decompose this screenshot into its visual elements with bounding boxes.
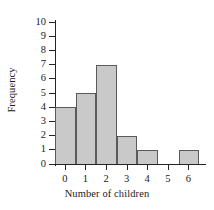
y-axis-tick-label: 3 xyxy=(41,114,46,127)
bar xyxy=(96,65,117,164)
x-axis-tick: 5 xyxy=(168,165,169,170)
tick-mark xyxy=(49,36,55,37)
histogram-chart: Frequency 012345678910 0123456 Number of… xyxy=(0,0,214,210)
bar xyxy=(117,136,138,164)
x-axis-tick: 1 xyxy=(85,165,86,170)
y-axis-tick: 7 xyxy=(49,64,55,65)
y-axis-tick: 6 xyxy=(49,78,55,79)
tick-mark xyxy=(147,165,148,170)
x-axis-tick: 0 xyxy=(65,165,66,170)
y-axis-tick-label: 2 xyxy=(41,128,46,141)
x-axis-tick-label: 5 xyxy=(159,172,177,185)
x-axis-tick-label: 0 xyxy=(56,172,74,185)
y-axis-tick-label: 10 xyxy=(36,15,47,28)
y-axis-tick: 5 xyxy=(49,93,55,94)
y-axis-tick: 8 xyxy=(49,50,55,51)
y-axis-title: Frequency xyxy=(6,5,20,175)
x-axis-title: Number of children xyxy=(0,188,214,199)
x-axis-tick-label: 4 xyxy=(138,172,156,185)
tick-mark xyxy=(49,64,55,65)
tick-mark xyxy=(49,22,55,23)
x-axis-tick: 3 xyxy=(127,165,128,170)
y-axis-tick-label: 1 xyxy=(41,142,46,155)
bar xyxy=(137,150,158,164)
y-axis-tick-label: 6 xyxy=(41,71,46,84)
tick-mark xyxy=(106,165,107,170)
x-axis-tick: 4 xyxy=(147,165,148,170)
tick-mark xyxy=(188,165,189,170)
x-axis-line xyxy=(55,164,206,165)
x-axis-tick-label: 1 xyxy=(76,172,94,185)
x-axis-tick: 2 xyxy=(106,165,107,170)
tick-mark xyxy=(85,165,86,170)
x-axis-tick-label: 6 xyxy=(179,172,197,185)
bar xyxy=(76,93,97,164)
y-axis-tick-label: 5 xyxy=(41,86,46,99)
x-axis-tick-label: 2 xyxy=(97,172,115,185)
bar xyxy=(55,107,76,164)
y-axis-tick-label: 4 xyxy=(41,100,46,113)
y-axis-tick-label: 9 xyxy=(41,29,46,42)
bar xyxy=(179,150,200,164)
y-axis-tick: 10 xyxy=(49,22,55,23)
tick-mark xyxy=(49,50,55,51)
tick-mark xyxy=(65,165,66,170)
y-axis-tick-label: 0 xyxy=(41,157,46,170)
tick-mark xyxy=(168,165,169,170)
x-axis-tick-label: 3 xyxy=(118,172,136,185)
tick-mark xyxy=(49,78,55,79)
y-axis-tick-label: 7 xyxy=(41,57,46,70)
x-axis-tick: 6 xyxy=(188,165,189,170)
tick-mark xyxy=(49,93,55,94)
y-axis-tick-label: 8 xyxy=(41,43,46,56)
y-axis-tick: 9 xyxy=(49,36,55,37)
tick-mark xyxy=(127,165,128,170)
